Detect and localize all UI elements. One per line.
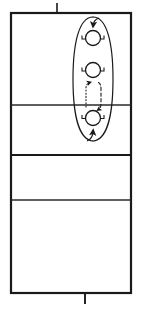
node-middle [82,63,104,78]
figure-canvas [0,0,142,311]
outer-rectangle [11,13,131,293]
technical-drawing-svg [0,0,142,311]
node-top [82,31,104,46]
node-bottom [82,111,104,126]
arrow-into-top-node [93,18,99,25]
arrow-dotted-up [86,83,90,108]
